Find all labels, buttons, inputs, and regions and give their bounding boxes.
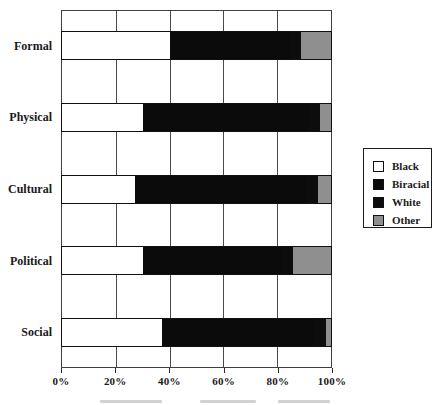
x-axis-tick-label: 100% xyxy=(318,375,346,387)
bar-segment-biracial xyxy=(143,104,310,131)
bar-segment-other xyxy=(301,32,331,59)
bar-segment-other xyxy=(320,104,331,131)
x-axis-tick xyxy=(278,368,279,373)
x-axis-tick xyxy=(61,368,62,373)
bar-segment-black xyxy=(62,176,135,203)
legend-swatch-white xyxy=(373,197,384,208)
bar-segment-biracial xyxy=(143,247,283,274)
bar-segment-black xyxy=(62,247,143,274)
x-axis-tick xyxy=(169,368,170,373)
stacked-bar-formal xyxy=(61,31,332,60)
bar-segment-biracial xyxy=(162,319,315,346)
legend-swatch-biracial xyxy=(373,179,384,190)
x-axis-tick xyxy=(115,368,116,373)
bar-segment-black xyxy=(62,319,162,346)
bar-segment-white xyxy=(291,32,302,59)
bar-segment-other xyxy=(293,247,331,274)
bar-segment-white xyxy=(315,319,326,346)
legend-item-white: White xyxy=(373,193,431,211)
bar-segment-white xyxy=(307,176,318,203)
cropped-caption-fragment xyxy=(278,400,330,403)
legend-label: Biracial xyxy=(392,178,429,190)
legend-swatch-black xyxy=(373,161,384,172)
legend-swatch-other xyxy=(373,215,384,226)
stacked-bar-physical xyxy=(61,103,332,132)
x-axis-tick xyxy=(224,368,225,373)
category-label-political: Political xyxy=(2,253,52,269)
x-axis-tick-label: 40% xyxy=(158,375,181,387)
bar-segment-black xyxy=(62,32,170,59)
stacked-bar-cultural xyxy=(61,175,332,204)
category-label-cultural: Cultural xyxy=(2,181,52,197)
legend-item-other: Other xyxy=(373,211,431,229)
category-label-formal: Formal xyxy=(2,38,52,54)
legend-item-black: Black xyxy=(373,157,431,175)
x-axis-tick-label: 0% xyxy=(53,375,70,387)
legend-label: White xyxy=(392,196,421,208)
bar-segment-white xyxy=(283,247,294,274)
plot-area xyxy=(61,10,332,368)
stacked-bar-chart-figure: FormalPhysicalCulturalPoliticalSocial 0%… xyxy=(0,0,440,405)
bar-segment-biracial xyxy=(170,32,291,59)
category-label-physical: Physical xyxy=(2,109,52,125)
category-label-social: Social xyxy=(2,324,52,340)
bar-segment-white xyxy=(309,104,320,131)
bar-segment-other xyxy=(326,319,331,346)
bar-segment-other xyxy=(318,176,331,203)
stacked-bar-political xyxy=(61,246,332,275)
legend-label: Other xyxy=(392,214,420,226)
x-axis-tick xyxy=(332,368,333,373)
cropped-caption-fragment xyxy=(200,400,256,403)
legend-label: Black xyxy=(392,160,419,172)
bar-segment-biracial xyxy=(135,176,307,203)
stacked-bar-social xyxy=(61,318,332,347)
x-axis-tick-label: 20% xyxy=(104,375,127,387)
legend-box: BlackBiracialWhiteOther xyxy=(363,148,432,228)
cropped-caption-fragment xyxy=(100,400,162,403)
bar-segment-black xyxy=(62,104,143,131)
x-axis-tick-label: 60% xyxy=(212,375,235,387)
legend-item-biracial: Biracial xyxy=(373,175,431,193)
x-axis-tick-label: 80% xyxy=(266,375,289,387)
